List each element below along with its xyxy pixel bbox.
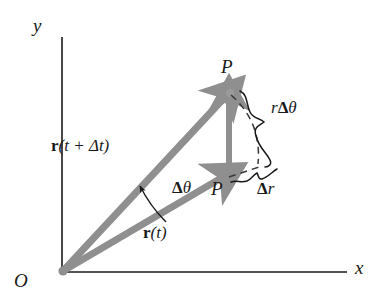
vector-label-r-t-plus-delta-t: r(t + Δt): [51, 137, 109, 154]
delta-symbol-3: Δ: [257, 179, 268, 198]
point-p-lower-label: P: [211, 179, 223, 198]
vector-label-argument-2: (t): [151, 223, 167, 242]
y-axis-label: y: [33, 16, 41, 35]
delta-symbol: Δ: [172, 178, 183, 197]
origin-label: O: [14, 271, 28, 290]
vector-label-r-t: r(t): [143, 224, 167, 241]
angle-delta-theta-label: Δθ: [172, 179, 191, 196]
dashed-radial-extension: [229, 166, 262, 177]
dashed-construction-group: [229, 95, 262, 177]
radial-change-label: Δr: [257, 180, 274, 197]
theta-symbol-2: θ: [288, 98, 296, 117]
brace-r-delta-theta: [240, 91, 271, 167]
vector-label-r-bold: r: [51, 136, 59, 155]
delta-symbol-2: Δ: [278, 98, 289, 117]
vector-r-t-plus-delta-t: [63, 96, 226, 271]
dashed-arc-radius-r: [231, 95, 258, 164]
vectors-group: [58, 89, 234, 276]
theta-symbol: θ: [183, 178, 191, 197]
vector-label-argument: (t + Δt): [59, 136, 110, 155]
vector-label-r-bold-2: r: [143, 223, 151, 242]
radius-symbol-2: r: [268, 179, 275, 198]
vector-displacement-diagram: y x O P P r(t + Δt) r(t) Δθ rΔθ Δr: [0, 0, 391, 303]
point-p-upper-label: P: [221, 57, 233, 76]
radius-symbol: r: [271, 98, 278, 117]
arc-length-label: rΔθ: [271, 99, 297, 116]
origin-dot: [58, 266, 67, 275]
x-axis-label: x: [355, 258, 363, 277]
